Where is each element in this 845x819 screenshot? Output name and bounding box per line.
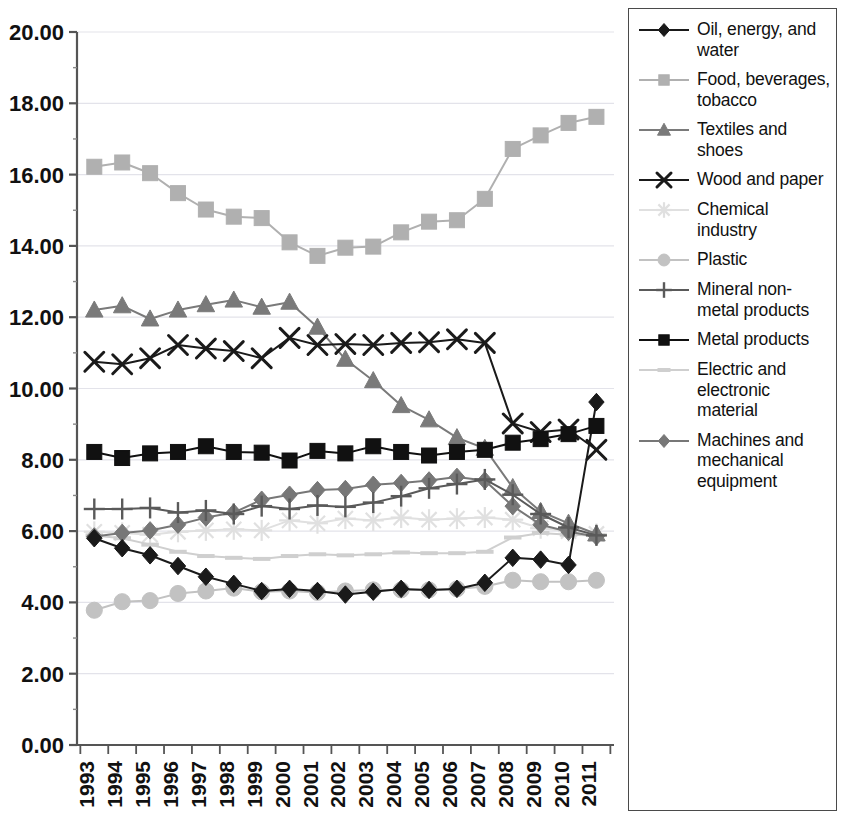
y-tick-label: 20.00: [9, 20, 64, 45]
legend-item[interactable]: Plastic: [637, 249, 830, 270]
x-tick-label: 2009: [522, 761, 545, 808]
x-tick-label: 2004: [382, 761, 405, 808]
legend-item-label: Electric and electronic material: [697, 359, 830, 421]
legend-item-label: Oil, energy, and water: [697, 19, 830, 60]
circle-icon: [637, 250, 691, 270]
series-food-beverages-tobacco: [87, 109, 604, 263]
y-tick-label: 12.00: [9, 305, 64, 330]
triangle-icon: [637, 120, 691, 140]
x-tick-label: 2011: [577, 761, 600, 807]
legend-item-label: Machines and mechanical equipment: [697, 430, 830, 492]
x-tick-label: 1999: [243, 761, 266, 808]
y-tick-label: 14.00: [9, 234, 64, 259]
series-electric-and-electronic-material: [86, 533, 606, 559]
cross-icon: [637, 170, 691, 190]
series-wood-and-paper: [85, 328, 606, 459]
legend-item-label: Metal products: [697, 329, 809, 350]
x-tick-label: 2008: [494, 761, 517, 808]
y-tick-label: 8.00: [21, 448, 64, 473]
x-tick-label: 2001: [299, 761, 322, 808]
square-icon: [637, 70, 691, 90]
x-tick-label: 1997: [187, 761, 210, 808]
y-tick-label: 16.00: [9, 163, 64, 188]
x-axis-tick-labels: 1993199419951996199719981999200020012002…: [75, 761, 600, 808]
legend-item[interactable]: Chemical industry: [637, 199, 830, 240]
y-tick-label: 18.00: [9, 91, 64, 116]
y-tick-label: 0.00: [21, 733, 64, 758]
dash-icon: [637, 360, 691, 380]
legend-item[interactable]: Wood and paper: [637, 169, 830, 190]
legend-item-label: Chemical industry: [697, 199, 830, 240]
x-tick-label: 1996: [159, 761, 182, 808]
series-metal-products: [87, 418, 604, 468]
plot-svg: 0.002.004.006.008.0010.0012.0014.0016.00…: [0, 0, 628, 819]
x-tick-label: 2005: [410, 761, 433, 808]
x-tick-label: 2010: [550, 761, 573, 808]
chart-legend: Oil, energy, and waterFood, beverages, t…: [628, 8, 837, 811]
legend-item[interactable]: Mineral non-metal products: [637, 279, 830, 320]
x-tick-label: 1995: [131, 761, 154, 808]
legend-item-label: Plastic: [697, 249, 747, 270]
data-series-layer: [84, 109, 607, 618]
x-tick-label: 2003: [354, 761, 377, 808]
x-tick-label: 1994: [103, 761, 126, 808]
y-tick-label: 6.00: [21, 519, 64, 544]
legend-item-label: Mineral non-metal products: [697, 279, 830, 320]
x-tick-label: 2000: [271, 761, 294, 808]
y-tick-label: 10.00: [9, 377, 64, 402]
legend-item[interactable]: Electric and electronic material: [637, 359, 830, 421]
legend-item[interactable]: Food, beverages, tobacco: [637, 69, 830, 110]
legend-item-label: Textiles and shoes: [697, 119, 830, 160]
y-tick-label: 4.00: [21, 590, 64, 615]
x-tick-label: 1998: [215, 761, 238, 808]
legend-item[interactable]: Textiles and shoes: [637, 119, 830, 160]
legend-item-label: Wood and paper: [697, 169, 823, 190]
legend-item[interactable]: Machines and mechanical equipment: [637, 430, 830, 492]
plus-icon: [637, 280, 691, 300]
diamond-icon: [637, 431, 691, 451]
x-tick-label: 2002: [326, 761, 349, 808]
diamond-icon: [637, 20, 691, 40]
chart-screenshot: 0.002.004.006.008.0010.0012.0014.0016.00…: [0, 0, 845, 819]
star-icon: [637, 200, 691, 220]
line-chart: 0.002.004.006.008.0010.0012.0014.0016.00…: [0, 0, 628, 819]
legend-item[interactable]: Oil, energy, and water: [637, 19, 830, 60]
x-tick-label: 2007: [466, 761, 489, 808]
y-tick-label: 2.00: [21, 662, 64, 687]
legend-item-label: Food, beverages, tobacco: [697, 69, 830, 110]
x-tick-label: 2006: [438, 761, 461, 808]
x-tick-label: 1993: [75, 761, 98, 808]
legend-item[interactable]: Metal products: [637, 329, 830, 350]
y-axis-tick-labels: 0.002.004.006.008.0010.0012.0014.0016.00…: [9, 20, 64, 758]
square-icon: [637, 330, 691, 350]
